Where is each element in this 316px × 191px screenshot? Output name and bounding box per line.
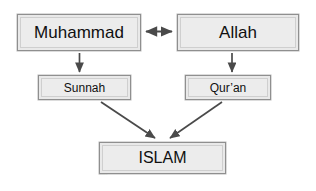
- diagram-canvas: Muhammad Allah Sunnah Qur’an ISLAM ·····…: [0, 0, 316, 191]
- micro-caption: ········: [99, 175, 108, 178]
- node-muhammad: Muhammad: [17, 14, 141, 51]
- node-allah: Allah: [177, 14, 299, 51]
- node-allah-label: Allah: [180, 17, 296, 48]
- arrow-quran-islam: [170, 102, 222, 138]
- node-islam: ISLAM: [99, 142, 226, 174]
- node-sunnah-label: Sunnah: [41, 78, 128, 97]
- node-islam-label: ISLAM: [102, 145, 223, 171]
- node-muhammad-label: Muhammad: [20, 17, 138, 48]
- node-quran-label: Qur’an: [188, 78, 268, 97]
- arrow-sunnah-islam: [101, 102, 155, 138]
- node-quran: Qur’an: [185, 75, 271, 100]
- node-sunnah: Sunnah: [38, 75, 131, 100]
